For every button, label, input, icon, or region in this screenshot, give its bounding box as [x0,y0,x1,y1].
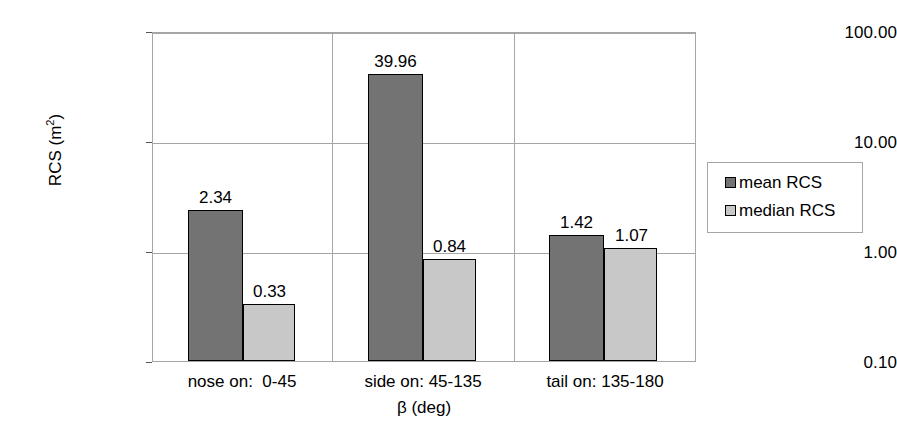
legend-swatch-mean-icon [725,177,736,188]
x-tick-label-nose-on: nose on: 0-45 [152,372,332,391]
y-axis-title-exponent: 2 [44,120,56,126]
y-tick-label-10: 10.00 [811,134,897,151]
gridline-10 [153,143,695,144]
bar-median-nose-on[interactable] [243,304,295,361]
x-tick-label-side-on: side on: 45-135 [332,372,514,391]
y-axis-title-text: RCS (m [46,126,65,186]
bar-value-median-nose-on: 0.33 [227,283,312,300]
rcs-bar-chart: 100.00 10.00 1.00 0.10 RCS (m2) [0,0,897,446]
bar-median-side-on[interactable] [423,259,476,361]
y-tick-label-100: 100.00 [811,24,897,41]
x-tick-label-tail-on: tail on: 135-180 [514,372,696,391]
legend-label-median: median RCS [739,202,835,219]
bar-mean-tail-on[interactable] [549,235,604,361]
bar-value-median-side-on: 0.84 [407,238,492,255]
bar-mean-side-on[interactable] [368,74,423,361]
category-separator-2 [514,33,515,361]
gridline-100 [153,33,695,34]
bar-value-mean-nose-on: 2.34 [173,189,258,206]
y-axis-title: RCS (m2) [46,70,66,230]
category-separator-1 [332,33,333,361]
y-axis-title-close: ) [46,114,65,120]
gridline-0.10 [153,361,695,362]
bar-value-median-tail-on: 1.07 [589,227,674,244]
y-tick-label-0.10: 0.10 [811,354,897,371]
x-axis-title: β (deg) [152,398,696,418]
chart-legend: mean RCS median RCS [707,162,863,233]
bar-median-tail-on[interactable] [604,248,657,361]
legend-label-mean: mean RCS [739,174,822,191]
plot-area: 2.34 0.33 39.96 0.84 1.42 1.07 [152,32,696,362]
y-tick-mark-0.10 [146,362,152,363]
legend-item-median-rcs[interactable]: median RCS [725,202,835,219]
legend-swatch-median-icon [725,205,736,216]
y-tick-label-1: 1.00 [811,244,897,261]
legend-item-mean-rcs[interactable]: mean RCS [725,174,822,191]
bar-value-mean-side-on: 39.96 [353,53,438,70]
